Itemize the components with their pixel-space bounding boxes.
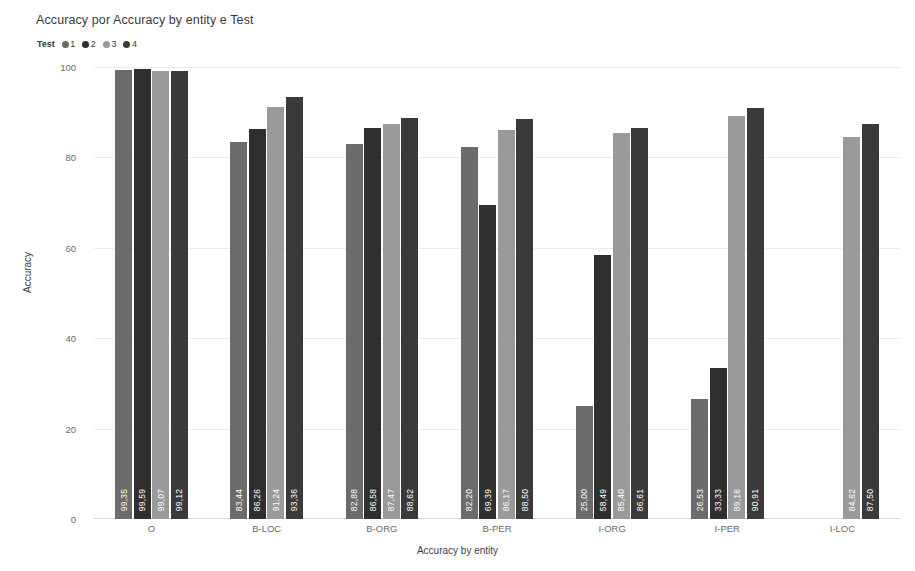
x-axis-tick-label: B-PER xyxy=(482,523,511,534)
x-axis: OB-LOCB-ORGB-PERI-ORGI-PERI-LOC xyxy=(94,523,900,539)
bar-B-ORG-test1[interactable]: 82,88 xyxy=(346,144,363,519)
y-axis-tick-label: 20 xyxy=(65,423,76,434)
x-axis-tick-label: I-LOC xyxy=(830,523,855,534)
x-axis-tick-label: I-PER xyxy=(715,523,740,534)
bar-I-ORG-test2[interactable]: 58,49 xyxy=(594,255,611,519)
bar-B-ORG-test4[interactable]: 88,62 xyxy=(401,118,418,519)
bar-value-label: 91,24 xyxy=(271,489,281,511)
bar-value-label: 58,49 xyxy=(598,489,608,511)
bar-I-PER-test4[interactable]: 90,91 xyxy=(747,108,764,519)
legend-title: Test xyxy=(37,39,55,49)
legend-item-2[interactable]: 2 xyxy=(82,39,96,49)
y-axis-tick-label: 60 xyxy=(65,242,76,253)
legend-swatch-icon xyxy=(123,41,130,48)
legend-item-1[interactable]: 1 xyxy=(62,39,76,49)
bar-B-LOC-test4[interactable]: 93,36 xyxy=(286,97,303,519)
bar-B-LOC-test1[interactable]: 83,44 xyxy=(230,142,247,519)
legend-swatch-icon xyxy=(103,41,110,48)
bar-O-test1[interactable]: 99,35 xyxy=(115,70,132,519)
bar-B-PER-test1[interactable]: 82,20 xyxy=(461,147,478,519)
bar-B-ORG-test3[interactable]: 87,47 xyxy=(383,124,400,519)
y-axis-title: Accuracy xyxy=(22,252,33,293)
bar-value-label: 87,50 xyxy=(865,489,875,511)
x-axis-tick-label: I-ORG xyxy=(598,523,625,534)
bar-value-label: 99,12 xyxy=(174,489,184,511)
bar-value-label: 83,44 xyxy=(234,489,244,511)
bar-value-label: 90,91 xyxy=(750,489,760,511)
bar-I-ORG-test1[interactable]: 25,00 xyxy=(576,406,593,519)
bar-value-label: 82,20 xyxy=(464,489,474,511)
bar-I-ORG-test4[interactable]: 86,61 xyxy=(631,128,648,519)
gridline xyxy=(94,67,900,68)
bar-value-label: 86,17 xyxy=(501,489,511,511)
bar-value-label: 99,35 xyxy=(119,489,129,511)
bar-value-label: 99,59 xyxy=(137,489,147,511)
y-axis: 020406080100 xyxy=(0,67,86,519)
bar-value-label: 82,88 xyxy=(349,489,359,511)
bar-value-label: 84,62 xyxy=(847,489,857,511)
bar-B-ORG-test2[interactable]: 86,58 xyxy=(364,128,381,519)
bar-B-LOC-test3[interactable]: 91,24 xyxy=(267,107,284,519)
bar-value-label: 86,58 xyxy=(368,489,378,511)
legend-swatch-icon xyxy=(62,41,69,48)
bar-value-label: 88,50 xyxy=(520,489,530,511)
bar-value-label: 99,07 xyxy=(156,489,166,511)
bar-value-label: 86,61 xyxy=(635,489,645,511)
chart-legend: Test 1234 xyxy=(37,39,140,49)
bar-I-PER-test3[interactable]: 89,16 xyxy=(728,116,745,519)
bar-value-label: 89,16 xyxy=(732,489,742,511)
bar-B-LOC-test2[interactable]: 86,26 xyxy=(249,129,266,519)
y-axis-tick-label: 0 xyxy=(71,514,76,525)
legend-swatch-icon xyxy=(82,41,89,48)
bar-O-test4[interactable]: 99,12 xyxy=(171,71,188,519)
bar-I-PER-test2[interactable]: 33,33 xyxy=(710,368,727,519)
legend-item-3[interactable]: 3 xyxy=(103,39,117,49)
legend-item-label: 3 xyxy=(111,39,116,49)
x-axis-tick-label: O xyxy=(148,523,155,534)
bar-B-PER-test4[interactable]: 88,50 xyxy=(516,119,533,519)
x-axis-title: Accuracy by entity xyxy=(0,545,915,556)
bar-value-label: 87,47 xyxy=(386,489,396,511)
bar-O-test3[interactable]: 99,07 xyxy=(152,71,169,519)
x-axis-tick-label: B-LOC xyxy=(252,523,281,534)
bar-I-PER-test1[interactable]: 26,53 xyxy=(691,399,708,519)
bar-B-PER-test2[interactable]: 69,39 xyxy=(479,205,496,519)
bar-value-label: 93,36 xyxy=(289,489,299,511)
bar-I-LOC-test3[interactable]: 84,62 xyxy=(843,137,860,519)
bar-value-label: 85,40 xyxy=(616,489,626,511)
bar-value-label: 88,62 xyxy=(405,489,415,511)
bar-value-label: 69,39 xyxy=(483,489,493,511)
bar-B-PER-test3[interactable]: 86,17 xyxy=(498,130,515,519)
bar-I-LOC-test4[interactable]: 87,50 xyxy=(862,124,879,520)
bar-chart: Accuracy por Accuracy by entity e Test T… xyxy=(0,0,915,571)
x-axis-tick-label: B-ORG xyxy=(366,523,397,534)
bar-value-label: 86,26 xyxy=(252,489,262,511)
y-axis-tick-label: 40 xyxy=(65,333,76,344)
bar-value-label: 26,53 xyxy=(695,489,705,511)
legend-item-label: 1 xyxy=(70,39,75,49)
y-axis-tick-label: 80 xyxy=(65,152,76,163)
bar-I-ORG-test3[interactable]: 85,40 xyxy=(613,133,630,519)
bar-O-test2[interactable]: 99,59 xyxy=(134,69,151,519)
bar-value-label: 25,00 xyxy=(579,489,589,511)
y-axis-tick-label: 100 xyxy=(60,62,76,73)
page-title: Accuracy por Accuracy by entity e Test xyxy=(36,13,254,27)
legend-item-4[interactable]: 4 xyxy=(123,39,137,49)
bar-value-label: 33,33 xyxy=(713,489,723,511)
legend-item-label: 4 xyxy=(132,39,137,49)
legend-item-label: 2 xyxy=(91,39,96,49)
plot-area: 99,3599,5999,0799,1283,4486,2691,2493,36… xyxy=(94,67,900,519)
